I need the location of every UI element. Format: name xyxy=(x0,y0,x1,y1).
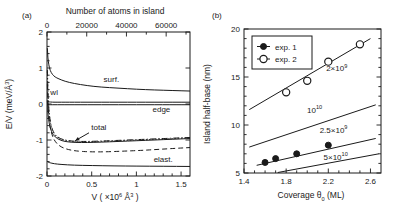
x-axis-label-unit: (ML) xyxy=(325,190,345,200)
curve-label-elast: elast. xyxy=(154,155,173,164)
panel-a-x-ticklabels: 0 0.5 1 1.5 xyxy=(45,180,187,189)
x-tick-label: 1.4 xyxy=(238,177,250,186)
y-tick-label: 15 xyxy=(231,73,240,82)
legend-label-exp2: exp. 2 xyxy=(275,55,297,64)
series-wl xyxy=(47,101,190,102)
x-tick-label: 2.6 xyxy=(365,177,377,186)
data-point-exp-1 xyxy=(294,151,300,157)
x-tick-label: 1.8 xyxy=(281,177,293,186)
legend-marker-exp2 xyxy=(260,55,267,62)
model-line-label: 2×109 xyxy=(326,63,347,74)
x-axis-label-base: Coverage xyxy=(278,190,317,200)
y-tick-label: -2 xyxy=(36,172,44,181)
top-tick-label: 0 xyxy=(45,21,50,30)
y-tick-label: 20 xyxy=(231,25,240,34)
data-point-exp-1 xyxy=(262,159,268,165)
svg-text:E/V (meV/Å3): E/V (meV/Å3) xyxy=(4,79,14,130)
panel-b-x-axis-label: Coverage θ0 (ML) xyxy=(278,190,345,202)
panel-a-svg: (a) Number of atoms in island 0 20000 40… xyxy=(0,0,196,208)
y-tick-label: 1 xyxy=(39,64,44,73)
panel-b-legend: exp. 1 exp. 2 xyxy=(252,36,312,69)
y-axis-label-text: Island half-base (nm) xyxy=(202,64,212,144)
panel-a: (a) Number of atoms in island 0 20000 40… xyxy=(0,0,196,208)
data-point-exp-2 xyxy=(304,77,311,84)
x-tick-label: 1 xyxy=(134,180,139,189)
legend-box xyxy=(252,36,312,69)
panel-a-tag: (a) xyxy=(22,11,32,20)
panel-b: (b) 5 10 15 20 1.4 1.8 2.2 2.6 Island ha… xyxy=(196,0,394,208)
figure-container: (a) Number of atoms in island 0 20000 40… xyxy=(0,0,394,208)
panel-a-top-ticklabels: 0 20000 40000 60000 xyxy=(45,21,178,30)
top-tick-label: 20000 xyxy=(76,21,99,30)
data-point-exp-1 xyxy=(273,156,279,162)
model-line-label: 1010 xyxy=(307,104,322,115)
panel-a-y-axis-label: E/V (meV/Å3) xyxy=(4,79,14,130)
curve-label-edge: edge xyxy=(153,105,171,114)
x-tick-label: 0.5 xyxy=(86,180,98,189)
y-axis-label-close: ) xyxy=(4,79,14,82)
model-line-label: 2.5×109 xyxy=(320,124,348,135)
panel-a-y-ticklabels: -2 -1 0 1 2 xyxy=(36,28,44,181)
x-tick-label: 0 xyxy=(45,180,50,189)
panel-b-tag: (b) xyxy=(212,11,222,20)
panel-a-top-axis-label: Number of atoms in island xyxy=(66,6,165,16)
y-tick-label: 0 xyxy=(39,100,44,109)
legend-marker-exp1 xyxy=(261,44,267,50)
top-tick-label: 60000 xyxy=(155,21,178,30)
y-tick-label: 2 xyxy=(39,28,44,37)
top-tick-label: 40000 xyxy=(115,21,138,30)
panel-b-y-axis-label: Island half-base (nm) xyxy=(202,64,212,144)
x-tick-label: 2.2 xyxy=(323,177,335,186)
series-surf- xyxy=(47,48,190,91)
data-point-exp-2 xyxy=(356,41,363,48)
panel-b-svg: (b) 5 10 15 20 1.4 1.8 2.2 2.6 Island ha… xyxy=(196,0,394,208)
x-tick-label: 1.5 xyxy=(176,180,188,189)
data-point-exp-1 xyxy=(325,142,331,148)
panel-a-x-axis-label: V ( ×106 Å3 ) xyxy=(91,192,138,203)
panel-b-y-ticklabels: 5 10 15 20 xyxy=(231,25,240,178)
panel-b-x-ticklabels: 1.4 1.8 2.2 2.6 xyxy=(238,177,376,186)
legend-label-exp1: exp. 1 xyxy=(275,43,297,52)
x-axis-label-close: ) xyxy=(133,192,138,202)
y-tick-label: -1 xyxy=(36,136,44,145)
curve-label-surf: surf. xyxy=(104,75,120,84)
y-tick-label: 10 xyxy=(231,121,240,130)
data-point-exp-2 xyxy=(283,89,290,96)
curve-label-total: total xyxy=(91,123,106,132)
x-axis-label-base: V ( ×10 xyxy=(91,192,119,202)
y-axis-label-base: E/V (meV/Å xyxy=(4,84,14,129)
curve-label-wl: wl xyxy=(49,88,58,97)
